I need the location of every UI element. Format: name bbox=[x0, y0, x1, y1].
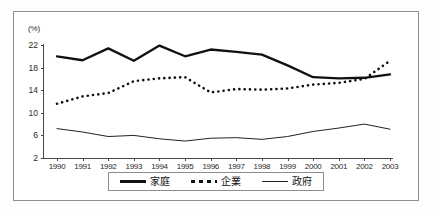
legend-item-government: 政府 bbox=[262, 177, 312, 187]
legend-label-government: 政府 bbox=[292, 177, 312, 187]
series-line-corporations bbox=[57, 61, 390, 104]
legend-label-corporations: 企業 bbox=[221, 177, 241, 187]
series-line-households bbox=[57, 46, 390, 79]
legend-label-households: 家庭 bbox=[150, 177, 170, 187]
series-line-government bbox=[57, 124, 390, 141]
chart-figure: (%) 2610141822 1990199119921993199419951… bbox=[0, 0, 434, 215]
legend-item-households: 家庭 bbox=[120, 177, 170, 187]
chart-legend: 家庭 企業 政府 bbox=[108, 172, 324, 191]
legend-swatch-solid-thin-icon bbox=[262, 181, 288, 182]
legend-swatch-dotted-icon bbox=[191, 180, 217, 183]
legend-item-corporations: 企業 bbox=[191, 177, 241, 187]
legend-swatch-solid-thick-icon bbox=[120, 180, 146, 183]
